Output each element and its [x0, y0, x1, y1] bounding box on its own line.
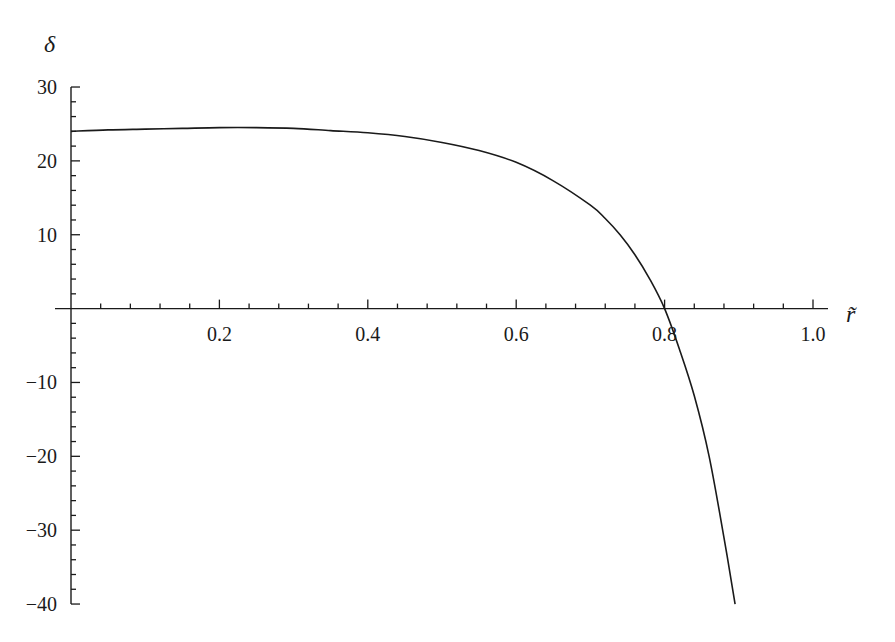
y-tick-label: 30 [37, 76, 57, 98]
x-tick-label: 1.0 [801, 323, 826, 345]
y-axis-title: δ [44, 31, 56, 57]
x-axis-title: r̃ [846, 301, 857, 327]
x-tick-label: 0.4 [355, 323, 380, 345]
x-tick-label: 0.6 [504, 323, 529, 345]
y-tick-label: 20 [37, 150, 57, 172]
axes [55, 87, 828, 604]
tick-labels: 0.20.40.60.81.0302010−10−20−30−40 [26, 76, 826, 615]
ticks [71, 87, 813, 604]
y-tick-label: 10 [37, 224, 57, 246]
y-tick-label: −30 [26, 519, 57, 541]
data-curve [71, 128, 735, 604]
chart: 0.20.40.60.81.0302010−10−20−30−40 δ r̃ [0, 0, 895, 642]
y-tick-label: −40 [26, 593, 57, 615]
y-tick-label: −10 [26, 371, 57, 393]
x-tick-label: 0.2 [207, 323, 232, 345]
y-tick-label: −20 [26, 445, 57, 467]
